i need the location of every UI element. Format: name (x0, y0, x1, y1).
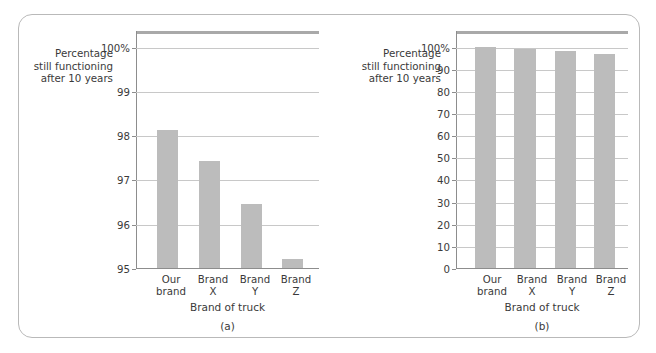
ytick-label-a-96: 96 (117, 219, 130, 230)
tick-b-30 (452, 203, 456, 204)
panel-caption-a: (a) (136, 320, 319, 332)
ytick-label-b-80: 80 (437, 86, 450, 97)
bar-a-our-brand (157, 130, 178, 268)
y-axis-title-line-2: still functioning (17, 60, 113, 73)
chart-panel-a: Percentage still functioning after 10 ye… (19, 15, 340, 337)
gridline-a-95: 95 (136, 269, 319, 270)
y-axis-title-line-1: Percentage (17, 47, 113, 60)
ytick-label-b-40: 40 (437, 175, 450, 186)
bar-a-brand-z (282, 259, 303, 268)
tick-b-100 (452, 48, 456, 49)
bar-b-brand-y (555, 51, 577, 268)
ytick-label-a-99: 99 (117, 86, 130, 97)
ytick-label-b-70: 70 (437, 109, 450, 120)
ytick-label-a-97: 97 (117, 175, 130, 186)
plot-top-band-b (456, 31, 628, 34)
xcat-a-brand-y: Brand Y (234, 274, 276, 298)
gridline-a-100: 100% (136, 48, 319, 49)
tick-b-90 (452, 70, 456, 71)
tick-a-100 (132, 48, 136, 49)
bar-b-brand-x (514, 49, 536, 268)
tick-b-70 (452, 114, 456, 115)
tick-b-40 (452, 180, 456, 181)
xcat-b-brand-z: Brand Z (590, 274, 632, 298)
y-axis-title-a: Percentage still functioning after 10 ye… (17, 47, 113, 85)
ytick-label-b-0: 0 (444, 264, 450, 275)
xcat-b-brand-x: Brand X (511, 274, 553, 298)
tick-b-0 (452, 269, 456, 270)
panel-caption-b: (b) (456, 320, 628, 332)
y-axis-title-line-2: still functioning (345, 60, 441, 73)
ytick-label-b-90: 90 (437, 64, 450, 75)
tick-b-80 (452, 92, 456, 93)
tick-b-50 (452, 158, 456, 159)
gridline-a-99: 99 (136, 92, 319, 93)
y-axis-line-a (136, 31, 137, 269)
ytick-label-b-100: 100% (421, 42, 450, 53)
figure-frame: Percentage still functioning after 10 ye… (18, 14, 640, 338)
ytick-label-b-50: 50 (437, 153, 450, 164)
tick-b-20 (452, 225, 456, 226)
ytick-label-b-30: 30 (437, 197, 450, 208)
y-axis-title-line-3: after 10 years (17, 72, 113, 85)
plot-area-a: 100% 99 98 97 96 95 (136, 31, 319, 269)
xcat-a-brand-x: Brand X (192, 274, 234, 298)
bar-b-our-brand (475, 47, 497, 268)
y-axis-line-b (456, 31, 457, 269)
ytick-label-a-95: 95 (117, 264, 130, 275)
tick-a-99 (132, 92, 136, 93)
tick-b-10 (452, 247, 456, 248)
bar-a-brand-x (199, 161, 220, 267)
tick-a-96 (132, 225, 136, 226)
chart-panel-b: Percentage still functioning after 10 ye… (340, 15, 641, 337)
gridline-b-0: 0 (456, 269, 628, 270)
ytick-label-b-10: 10 (437, 241, 450, 252)
xcat-b-our-brand: Our brand (471, 274, 513, 298)
xcat-a-our-brand: Our brand (150, 274, 192, 298)
tick-a-95 (132, 269, 136, 270)
bar-a-brand-y (241, 204, 262, 268)
xcat-b-brand-y: Brand Y (551, 274, 593, 298)
xcat-a-brand-z: Brand Z (275, 274, 317, 298)
ytick-label-a-98: 98 (117, 131, 130, 142)
x-axis-title-b: Brand of truck (456, 301, 628, 313)
y-axis-title-line-3: after 10 years (345, 72, 441, 85)
plot-area-b: 100% 90 80 70 60 50 (456, 31, 628, 269)
tick-a-97 (132, 180, 136, 181)
ytick-label-b-60: 60 (437, 131, 450, 142)
ytick-label-a-100: 100% (101, 42, 130, 53)
plot-top-band-a (136, 31, 319, 34)
tick-b-60 (452, 136, 456, 137)
tick-a-98 (132, 136, 136, 137)
ytick-label-b-20: 20 (437, 219, 450, 230)
bar-b-brand-z (594, 54, 616, 268)
x-axis-title-a: Brand of truck (136, 301, 319, 313)
